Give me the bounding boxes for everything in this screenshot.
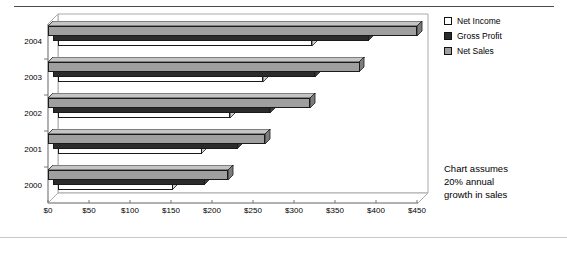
- bar-side-face: [417, 21, 424, 38]
- chart-legend: Net IncomeGross ProfitNet Sales: [444, 14, 554, 59]
- bar-front-face: [48, 134, 265, 144]
- bar-net-sales-2002: [48, 98, 310, 108]
- y-axis-tick-2002: 2002: [2, 109, 42, 118]
- x-axis-tick-7: $350: [318, 206, 352, 215]
- y-axis-tick-2004: 2004: [2, 37, 42, 46]
- bar-front-face: [48, 98, 310, 108]
- x-axis-tick-8: $400: [359, 206, 393, 215]
- bar-side-face: [310, 93, 317, 110]
- note-line-3: growth in sales: [444, 188, 560, 201]
- bar-net-sales-2001: [48, 134, 265, 144]
- x-axis-tick-6: $300: [277, 206, 311, 215]
- bar-net-sales-2000: [48, 170, 228, 180]
- bar-side-face: [228, 165, 235, 182]
- legend-swatch-icon: [444, 17, 452, 25]
- y-axis-tick-2001: 2001: [2, 145, 42, 154]
- x-axis-tick-1: $50: [72, 206, 106, 215]
- bar-front-face: [48, 170, 228, 180]
- legend-item-net-income: Net Income: [444, 14, 554, 27]
- bar-net-sales-2003: [48, 62, 360, 72]
- bar-side-face: [359, 57, 366, 74]
- x-axis-tick-9: $450: [400, 206, 434, 215]
- growth-assumption-note: Chart assumes 20% annual growth in sales: [444, 162, 560, 201]
- legend-item-net-sales: Net Sales: [444, 44, 554, 57]
- legend-swatch-icon: [444, 32, 452, 40]
- x-axis-tick-0: $0: [31, 206, 65, 215]
- x-axis-tick-4: $200: [195, 206, 229, 215]
- x-axis-tick-3: $150: [154, 206, 188, 215]
- legend-item-gross-profit: Gross Profit: [444, 29, 554, 42]
- bar-side-face: [265, 129, 272, 146]
- x-axis-tick-5: $250: [236, 206, 270, 215]
- note-line-2: 20% annual: [444, 175, 560, 188]
- y-axis-tick-2003: 2003: [2, 73, 42, 82]
- bottom-divider-rule: [0, 237, 567, 238]
- x-axis-tick-2: $100: [113, 206, 147, 215]
- legend-label: Gross Profit: [457, 31, 502, 41]
- legend-swatch-icon: [444, 47, 452, 55]
- bar-front-face: [48, 62, 360, 72]
- legend-label: Net Sales: [457, 46, 494, 56]
- y-axis-tick-2000: 2000: [2, 181, 42, 190]
- bar-net-sales-2004: [48, 26, 417, 36]
- legend-label: Net Income: [457, 16, 500, 26]
- bar-front-face: [48, 26, 417, 36]
- note-line-1: Chart assumes: [444, 162, 560, 175]
